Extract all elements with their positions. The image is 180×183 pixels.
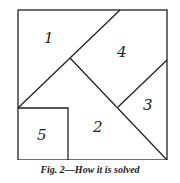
piece-label-4: 4 xyxy=(116,43,127,61)
puzzle-diagram: 1 4 3 2 5 xyxy=(0,0,180,160)
piece-label-1: 1 xyxy=(44,29,54,47)
piece-label-3: 3 xyxy=(143,96,153,114)
piece-label-5: 5 xyxy=(37,126,47,144)
piece-label-2: 2 xyxy=(92,118,103,136)
figure-caption: Fig. 2—How it is solved xyxy=(0,164,180,175)
diagonal-1 xyxy=(18,10,120,108)
